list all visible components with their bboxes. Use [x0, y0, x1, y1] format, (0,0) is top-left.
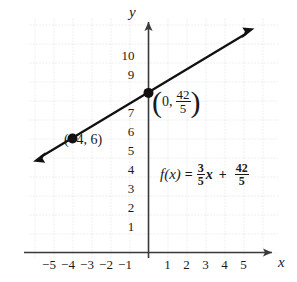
equation-equals-sign: = — [185, 168, 193, 182]
x-tick-minus1: −1 — [115, 258, 135, 271]
y-tick-7: 7 — [123, 106, 139, 119]
equation-variable: x — [206, 168, 213, 182]
y-tick-4: 4 — [123, 163, 139, 176]
intercept-denominator: 5 — [176, 101, 191, 115]
x-tick-minus2: −2 — [96, 258, 116, 271]
y-tick-9: 9 — [123, 68, 139, 81]
intercept-coords: 0, 42 5 — [162, 88, 191, 116]
second-point-label: (−4, 6) — [64, 133, 102, 147]
x-tick-4: 4 — [215, 258, 234, 271]
graph-figure: y x 10 9 7 6 5 4 3 2 1 −5 −4 −3 −2 −1 1 … — [0, 0, 297, 282]
function-equation: f(x) = 3 5 x + 42 5 — [160, 162, 249, 187]
y-tick-10: 10 — [117, 49, 139, 62]
y-tick-3: 3 — [123, 182, 139, 195]
equation-function-name: f(x) — [160, 167, 181, 182]
slope-numerator: 3 — [197, 162, 205, 174]
x-tick-minus3: −3 — [77, 258, 97, 271]
y-axis-label: y — [129, 5, 136, 20]
y-intercept-point-label: ( 0, 42 5 ) — [152, 88, 201, 116]
x-tick-3: 3 — [196, 258, 215, 271]
equation-plus-sign: + — [219, 168, 227, 182]
x-tick-2: 2 — [177, 258, 196, 271]
intercept-numerator: 42 — [176, 88, 191, 101]
equation-slope-fraction: 3 5 — [197, 162, 205, 187]
open-paren-glyph: ( — [152, 90, 162, 113]
y-tick-5: 5 — [123, 144, 139, 157]
x-axis-label: x — [278, 255, 285, 270]
x-tick-5: 5 — [234, 258, 253, 271]
equation-intercept-numerator: 42 — [235, 162, 249, 174]
equation-intercept-denominator: 5 — [235, 174, 249, 187]
x-tick-minus4: −4 — [58, 258, 78, 271]
x-tick-minus5: −5 — [39, 258, 59, 271]
x-tick-1: 1 — [158, 258, 177, 271]
intercept-y-fraction: 42 5 — [176, 88, 191, 116]
y-tick-2: 2 — [123, 201, 139, 214]
y-tick-1: 1 — [123, 220, 139, 233]
coordinate-plane-svg — [0, 0, 297, 282]
y-tick-6: 6 — [123, 125, 139, 138]
slope-denominator: 5 — [197, 174, 205, 187]
equation-intercept-fraction: 42 5 — [235, 162, 249, 187]
close-paren-glyph: ) — [191, 90, 201, 113]
intercept-x-value: 0, — [162, 95, 173, 109]
